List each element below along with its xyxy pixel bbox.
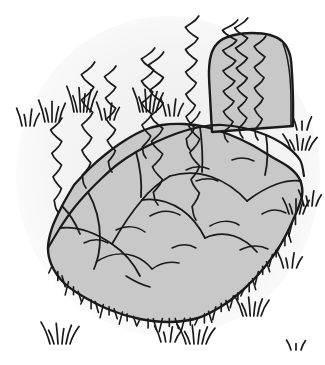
rock-illustration-svg [0, 0, 325, 365]
illustration-canvas: Rock Outcrop with Grass [0, 0, 325, 365]
rock-pillar-shape [209, 33, 293, 132]
